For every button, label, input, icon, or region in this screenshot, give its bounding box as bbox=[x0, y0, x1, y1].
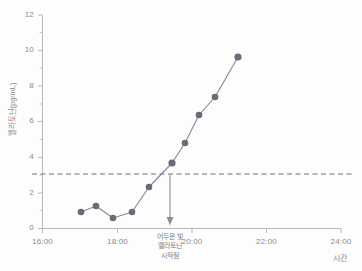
data-point bbox=[168, 159, 175, 166]
dlmo-annotation-line-1: 어두운 빛 bbox=[139, 232, 201, 241]
dlmo-onset-arrow bbox=[167, 175, 174, 226]
y-tick-label-8: 8 bbox=[18, 81, 34, 90]
x-tick-label-2400: 24:00 bbox=[321, 237, 361, 246]
x-axis-title: 시간 bbox=[320, 252, 360, 263]
data-point bbox=[93, 203, 100, 210]
y-tick-label-4: 4 bbox=[18, 152, 34, 161]
y-tick-label-6: 6 bbox=[18, 116, 34, 125]
dlmo-onset-annotation: 어두운 빛 멜라토닌 시작점 bbox=[139, 232, 201, 260]
y-axis-major-ticks bbox=[38, 15, 43, 229]
data-point bbox=[129, 209, 136, 216]
data-point bbox=[234, 53, 241, 60]
chart-plot-area bbox=[0, 0, 362, 271]
x-tick-label-1800: 18:00 bbox=[98, 237, 138, 246]
melatonin-data-markers bbox=[78, 53, 242, 221]
data-point bbox=[110, 215, 117, 222]
dlmo-annotation-line-2: 멜라토닌 bbox=[139, 241, 201, 250]
y-tick-label-10: 10 bbox=[18, 45, 34, 54]
melatonin-series-line bbox=[81, 57, 238, 218]
x-tick-label-2200: 22:00 bbox=[247, 237, 287, 246]
y-tick-label-0: 0 bbox=[18, 223, 34, 232]
data-point bbox=[182, 140, 189, 147]
y-tick-label-12: 12 bbox=[18, 10, 34, 19]
dlmo-annotation-line-3: 시작점 bbox=[139, 251, 201, 260]
data-point bbox=[196, 112, 203, 119]
y-tick-label-2: 2 bbox=[18, 188, 34, 197]
data-point bbox=[146, 184, 153, 191]
data-point bbox=[212, 94, 219, 101]
x-tick-label-1600: 16:00 bbox=[23, 237, 63, 246]
data-point bbox=[78, 209, 85, 216]
melatonin-chart: 0 2 4 6 8 10 12 16:00 18:00 20:00 22:00 … bbox=[0, 0, 362, 271]
y-axis-title: 멜라토닌(pg/mL) bbox=[6, 80, 17, 140]
